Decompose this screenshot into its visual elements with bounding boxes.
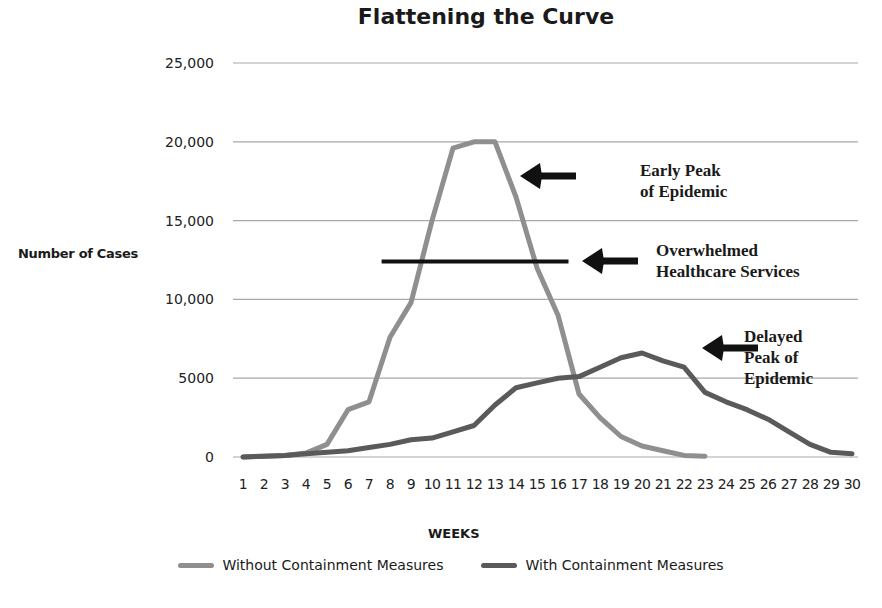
x-tick-label: 29 — [823, 476, 840, 492]
x-tick-label: 5 — [323, 476, 331, 492]
y-tick-label: 0 — [205, 449, 214, 465]
annotation-early-peak: Early Peak of Epidemic — [640, 160, 727, 202]
x-tick-label: 10 — [424, 476, 441, 492]
y-axis-ticks: 0500010,00015,00020,00025,000 — [165, 55, 214, 465]
x-tick-label: 4 — [302, 476, 311, 492]
y-tick-label: 10,000 — [165, 291, 214, 307]
x-tick-label: 20 — [634, 476, 651, 492]
y-tick-label: 15,000 — [165, 213, 214, 229]
x-axis-ticks: 1234567891011121314151617181920212223242… — [239, 476, 860, 492]
x-tick-label: 22 — [676, 476, 693, 492]
y-tick-label: 25,000 — [165, 55, 214, 71]
legend-swatch-icon — [178, 563, 214, 568]
x-tick-label: 7 — [365, 476, 373, 492]
arrow-left-icon — [520, 163, 576, 189]
x-tick-label: 14 — [508, 476, 525, 492]
x-tick-label: 17 — [571, 476, 588, 492]
legend: Without Containment Measures With Contai… — [0, 557, 882, 573]
x-tick-label: 11 — [445, 476, 462, 492]
x-tick-label: 19 — [613, 476, 630, 492]
x-tick-label: 25 — [739, 476, 756, 492]
x-tick-label: 16 — [550, 476, 567, 492]
plot-area: 0500010,00015,00020,00025,000 1234567891… — [0, 0, 882, 608]
x-tick-label: 6 — [344, 476, 353, 492]
y-tick-label: 5000 — [178, 370, 214, 386]
x-tick-label: 13 — [487, 476, 504, 492]
annotation-overwhelmed: Overwhelmed Healthcare Services — [656, 240, 800, 282]
x-tick-label: 28 — [802, 476, 819, 492]
x-tick-label: 26 — [760, 476, 777, 492]
x-tick-label: 23 — [697, 476, 714, 492]
x-tick-label: 2 — [260, 476, 268, 492]
x-tick-label: 1 — [239, 476, 247, 492]
x-tick-label: 18 — [592, 476, 609, 492]
x-tick-label: 3 — [281, 476, 289, 492]
x-tick-label: 12 — [466, 476, 483, 492]
legend-item-without[interactable]: Without Containment Measures — [178, 557, 443, 573]
x-tick-label: 15 — [529, 476, 546, 492]
annotation-delayed-peak: Delayed Peak of Epidemic — [744, 326, 813, 389]
legend-swatch-icon — [481, 563, 517, 568]
x-tick-label: 8 — [386, 476, 394, 492]
x-tick-label: 27 — [781, 476, 798, 492]
y-tick-label: 20,000 — [165, 134, 214, 150]
arrow-left-icon — [582, 248, 638, 274]
x-tick-label: 30 — [844, 476, 861, 492]
x-tick-label: 9 — [407, 476, 415, 492]
x-tick-label: 21 — [655, 476, 672, 492]
legend-item-with[interactable]: With Containment Measures — [481, 557, 723, 573]
x-tick-label: 24 — [718, 476, 735, 492]
